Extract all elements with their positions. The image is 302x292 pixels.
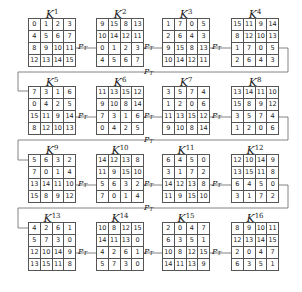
matrix-cell: 3 bbox=[174, 235, 186, 247]
matrix-cell: 9 bbox=[267, 155, 279, 167]
matrix-cell: 4 bbox=[132, 191, 144, 203]
matrix-cell: 11 bbox=[64, 43, 76, 55]
matrix-cell: 2 bbox=[232, 247, 244, 259]
matrix-cell: 10 bbox=[64, 179, 76, 191]
operator-label: PT bbox=[78, 42, 87, 51]
matrix-cell: 10 bbox=[97, 223, 109, 235]
matrix-cell: 3 bbox=[52, 235, 64, 247]
matrix-grid: 1081215141113042615730 bbox=[96, 222, 144, 271]
matrix-cell: 15 bbox=[186, 111, 198, 123]
matrix-cell: 9 bbox=[52, 111, 64, 123]
matrix-grid: 4261573012101491315118 bbox=[28, 222, 76, 271]
matrix-cell: 14 bbox=[163, 179, 175, 191]
matrix-cell: 2 bbox=[132, 179, 144, 191]
matrix-grid: 0123456789101112131415 bbox=[28, 18, 76, 67]
matrix-cell: 8 bbox=[29, 123, 41, 135]
matrix-cell: 12 bbox=[186, 247, 198, 259]
matrix-cell: 6 bbox=[163, 155, 175, 167]
matrix-cell: 8 bbox=[120, 99, 132, 111]
matrix-cell: 14 bbox=[267, 19, 279, 31]
matrix-cell: 14 bbox=[163, 259, 175, 271]
matrix-cell: 2 bbox=[174, 99, 186, 111]
matrix-cell: 2 bbox=[120, 43, 132, 55]
matrix-cell: 5 bbox=[243, 111, 255, 123]
matrix-cell: 9 bbox=[40, 43, 52, 55]
matrix-cell: 3 bbox=[163, 87, 175, 99]
matrix-grid: 6450317214121381191510 bbox=[162, 154, 210, 203]
matrix-cell: 3 bbox=[243, 259, 255, 271]
matrix-cell: 6 bbox=[108, 179, 120, 191]
matrix-cell: 5 bbox=[267, 43, 279, 55]
matrix-cell: 6 bbox=[40, 155, 52, 167]
matrix-cell: 15 bbox=[120, 87, 132, 99]
matrix-cell: 10 bbox=[267, 87, 279, 99]
matrix-cell: 3 bbox=[232, 111, 244, 123]
matrix-cell: 9 bbox=[108, 167, 120, 179]
matrix-cell: 4 bbox=[29, 223, 41, 235]
matrix-cell: 3 bbox=[40, 87, 52, 99]
matrix-cell: 14 bbox=[174, 55, 186, 67]
matrix-cell: 7 bbox=[108, 259, 120, 271]
matrix-cell: 11 bbox=[52, 259, 64, 271]
matrix-cell: 11 bbox=[243, 19, 255, 31]
matrix-cell: 13 bbox=[232, 87, 244, 99]
matrix-cell: 0 bbox=[255, 123, 267, 135]
matrix-cell: 8 bbox=[40, 191, 52, 203]
matrix-cell: 13 bbox=[29, 179, 41, 191]
matrix-cell: 14 bbox=[243, 87, 255, 99]
matrix-cell: 10 bbox=[255, 223, 267, 235]
matrix-cell: 15 bbox=[29, 111, 41, 123]
matrix-cell: 10 bbox=[163, 55, 175, 67]
matrix-cell: 7 bbox=[255, 191, 267, 203]
matrix-cell: 12 bbox=[174, 179, 186, 191]
matrix-cell: 10 bbox=[97, 31, 109, 43]
matrix-cell: 14 bbox=[255, 155, 267, 167]
matrix-cell: 9 bbox=[163, 43, 175, 55]
matrix-cell: 4 bbox=[29, 31, 41, 43]
matrix-cell: 0 bbox=[255, 43, 267, 55]
matrix-cell: 10 bbox=[132, 167, 144, 179]
matrix-cell: 8 bbox=[232, 223, 244, 235]
matrix-cell: 1 bbox=[232, 123, 244, 135]
operator-label: PT bbox=[78, 179, 87, 188]
matrix-cell: 15 bbox=[132, 223, 144, 235]
matrix-cell: 9 bbox=[243, 223, 255, 235]
matrix-cell: 14 bbox=[255, 235, 267, 247]
matrix-cell: 0 bbox=[97, 123, 109, 135]
matrix-cell: 7 bbox=[40, 235, 52, 247]
matrix-cell: 5 bbox=[40, 31, 52, 43]
matrix-cell: 14 bbox=[198, 123, 210, 135]
matrix-cell: 8 bbox=[29, 43, 41, 55]
matrix-grid: 9158131014121101234567 bbox=[96, 18, 144, 67]
matrix-cell: 11 bbox=[267, 223, 279, 235]
matrix-cell: 8 bbox=[232, 31, 244, 43]
matrix-cell: 9 bbox=[198, 259, 210, 271]
matrix-cell: 3 bbox=[163, 167, 175, 179]
matrix-cell: 7 bbox=[64, 31, 76, 43]
matrix-cell: 7 bbox=[132, 55, 144, 67]
matrix-grid: 1412138119151056327014 bbox=[96, 154, 144, 203]
matrix-cell: 2 bbox=[108, 247, 120, 259]
matrix-cell: 12 bbox=[232, 235, 244, 247]
matrix-cell: 1 bbox=[232, 43, 244, 55]
operator-label: PT bbox=[212, 247, 221, 256]
operator-label: PT bbox=[212, 179, 221, 188]
matrix-cell: 1 bbox=[132, 247, 144, 259]
matrix-cell: 13 bbox=[108, 87, 120, 99]
matrix-cell: 11 bbox=[40, 111, 52, 123]
matrix-cell: 15 bbox=[232, 19, 244, 31]
matrix-cell: 4 bbox=[108, 123, 120, 135]
matrix-cell: 1 bbox=[52, 87, 64, 99]
matrix-cell: 6 bbox=[267, 123, 279, 135]
matrix-cell: 14 bbox=[64, 111, 76, 123]
operator-label: PT bbox=[212, 111, 221, 120]
matrix-cell: 8 bbox=[132, 155, 144, 167]
matrix-grid: 1511914812101317052643 bbox=[231, 18, 279, 67]
matrix-cell: 8 bbox=[174, 247, 186, 259]
matrix-cell: 14 bbox=[97, 155, 109, 167]
matrix-cell: 1 bbox=[120, 111, 132, 123]
matrix-cell: 13 bbox=[198, 43, 210, 55]
matrix-cell: 0 bbox=[174, 223, 186, 235]
matrix-cell: 6 bbox=[52, 31, 64, 43]
permutation-diagram: K10123456789101112131415K291581310141211… bbox=[0, 0, 302, 292]
